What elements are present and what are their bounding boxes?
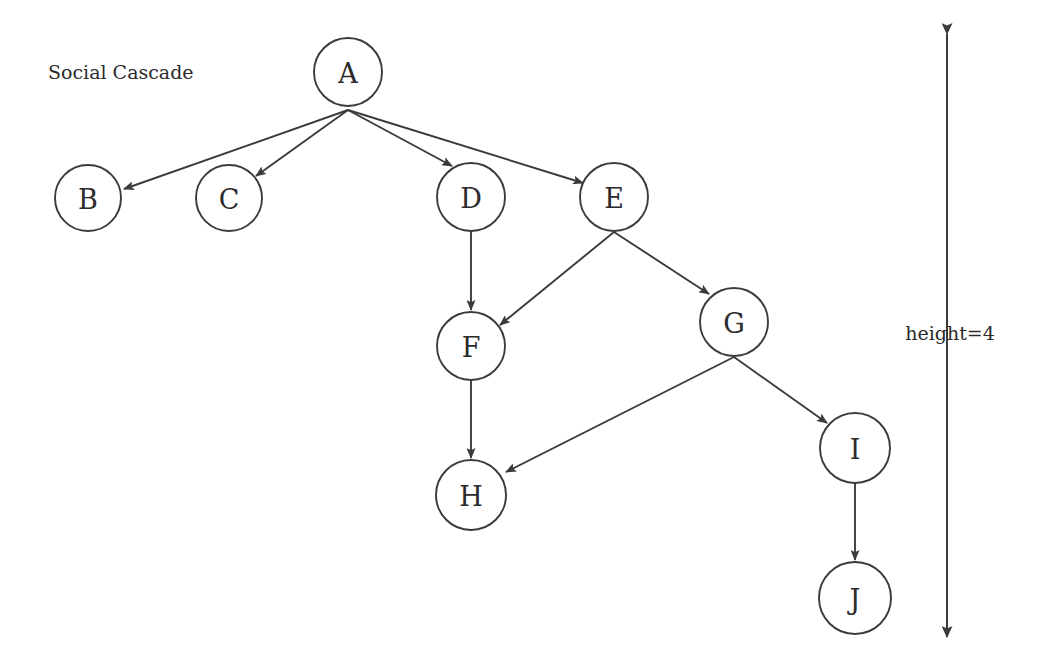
node-f[interactable]: F [437, 312, 505, 380]
edge-e-g [614, 232, 709, 294]
node-j[interactable]: J [819, 562, 891, 634]
node-h[interactable]: H [436, 460, 506, 530]
node-b[interactable]: B [55, 165, 121, 231]
node-c[interactable]: C [196, 165, 262, 231]
edge-g-i [734, 357, 827, 423]
height-label: height=4 [905, 322, 995, 344]
diagram-title: Social Cascade [48, 61, 194, 83]
node-label-j: J [847, 584, 861, 615]
node-label-f: F [462, 332, 481, 363]
node-label-d: D [460, 183, 482, 214]
edge-a-c [256, 110, 348, 176]
node-label-h: H [459, 481, 483, 512]
node-e[interactable]: E [580, 163, 648, 231]
node-i[interactable]: I [820, 413, 890, 483]
node-label-c: C [219, 184, 240, 215]
node-label-i: I [850, 434, 861, 465]
node-label-a: A [337, 58, 358, 89]
edge-e-f [500, 232, 614, 325]
node-g[interactable]: G [700, 288, 768, 356]
node-a[interactable]: A [314, 38, 382, 106]
node-d[interactable]: D [437, 163, 505, 231]
diagram-canvas: A B C D E F G [0, 0, 1039, 666]
edge-g-h [506, 357, 734, 472]
node-label-e: E [604, 183, 624, 214]
height-annotation: height=4 [905, 34, 995, 637]
node-label-b: B [78, 184, 98, 215]
node-label-g: G [723, 308, 745, 339]
nodes-layer: A B C D E F G [55, 38, 891, 634]
social-cascade-diagram: A B C D E F G [0, 0, 1039, 666]
